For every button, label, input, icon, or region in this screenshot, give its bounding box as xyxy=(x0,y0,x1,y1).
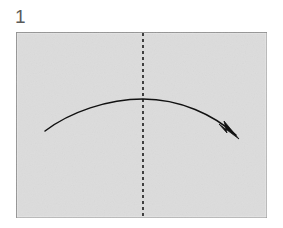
paper-illustration xyxy=(0,0,283,228)
origami-diagram: 1 xyxy=(0,0,283,228)
